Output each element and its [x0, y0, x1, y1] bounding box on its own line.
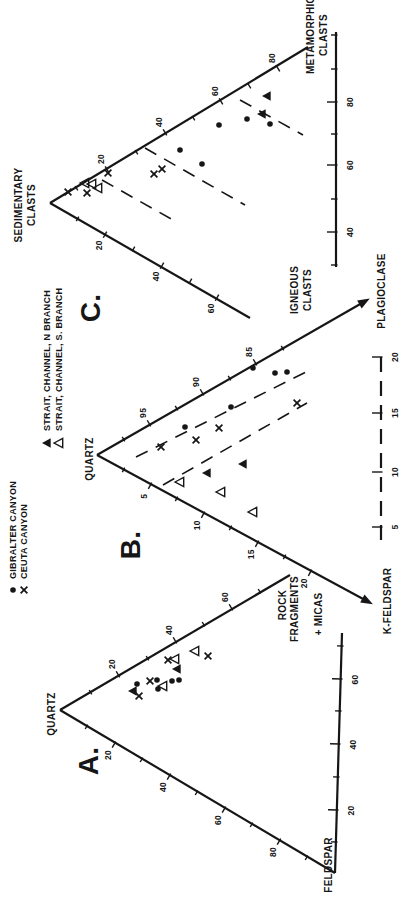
legend-label-nbranch: STRAIT, CHANNEL, N BRANCH [42, 290, 52, 431]
data-point-nbranch [128, 686, 137, 695]
a-vertex-label-fragments: FRAGMENTS [289, 576, 300, 642]
axis-tick-label: 60 [220, 592, 230, 602]
data-point-sbranch [175, 477, 184, 486]
b-apex-label-quartz: QUARTZ [84, 437, 95, 480]
axis-tick [248, 84, 251, 88]
group-divider-dashed-line [145, 148, 245, 205]
legend-marker-sbranch [54, 438, 63, 447]
axis-tick-label: 95 [138, 408, 148, 418]
data-point-gibralter [176, 677, 182, 683]
group-divider-dashed-line [240, 100, 303, 135]
axis-tick-label: 20 [299, 578, 309, 588]
group-divider-dashed-line [102, 180, 173, 220]
data-point-sbranch [93, 183, 102, 192]
data-point-sbranch [190, 646, 199, 655]
a-vertex-label-rock: ROCK [277, 589, 288, 620]
c-apex-label-sedimentary: SEDIMENTARY [13, 167, 24, 242]
data-point-nbranch [238, 459, 247, 468]
data-point-gibralter [284, 369, 290, 375]
axis-tick-label: 60 [210, 86, 220, 96]
axis-tick-label: 90 [191, 377, 201, 387]
legend-marker-gibralter [10, 587, 16, 593]
b-vertex-label-k-feldspar: K-FELDSPAR [382, 567, 393, 634]
axis-tick-label: 40 [158, 782, 168, 792]
axis-tick-label: 20 [94, 240, 104, 250]
axis-tick-label: 60 [345, 160, 355, 170]
data-point-gibralter [272, 370, 278, 376]
a-vertex-label-micas: + MICAS [313, 593, 324, 636]
data-point-gibralter [182, 424, 188, 430]
group-divider-dashed-line [163, 403, 307, 485]
axis-tick-label: 20 [96, 154, 106, 164]
legend-label-sbranch: STRAIT, CHANNEL, S. BRANCH [54, 288, 64, 431]
diagram-a-title: A. [73, 747, 104, 776]
diagram-c-title: C. [75, 294, 106, 323]
c-vertex-label-igneous: IGNEOUS [289, 266, 300, 314]
axis-tick-label: 40 [154, 117, 164, 127]
axis-tick-label: 40 [348, 739, 358, 749]
axis-tick-label: 40 [345, 227, 355, 237]
axis-tick-label: 20 [103, 750, 113, 760]
legend-label-gibralter: GIBRALTER CANYON [8, 481, 18, 579]
data-point-nbranch [202, 468, 211, 477]
axis-tick-label: 80 [345, 97, 355, 107]
axis-tick-label: 80 [268, 847, 278, 857]
a-vertex-label-feldspar: FELDSPAR [323, 837, 334, 893]
rotated-figure-stage: 20406020406080204060A.QUARTZFELDSPARROCK… [0, 0, 405, 911]
data-point-gibralter [134, 681, 140, 687]
axis-tick [189, 279, 191, 283]
a-apex-label-quartz: QUARTZ [46, 692, 57, 735]
ternary-edge [60, 575, 290, 710]
axis-tick-label: 20 [107, 659, 117, 669]
data-point-gibralter [216, 122, 222, 128]
axis-tick-label: 10 [390, 467, 400, 477]
axis-tick-label: 10 [192, 520, 202, 530]
data-point-sbranch [216, 487, 225, 496]
scale-bar-axis [335, 633, 342, 873]
data-point-nbranch [172, 664, 181, 673]
data-point-gibralter [154, 677, 160, 683]
axis-tick-label: 60 [206, 303, 216, 313]
c-vertex-label-metamorphic: METAMORPHIC [305, 0, 316, 74]
data-point-gibralter [169, 678, 175, 684]
data-point-nbranch [257, 109, 266, 118]
axis-arrowhead [360, 595, 373, 605]
axis-tick-label: 80 [267, 53, 277, 63]
axis-tick-label: 20 [346, 805, 356, 815]
axis-tick-label: 60 [213, 815, 223, 825]
axis-tick-label: 15 [390, 408, 400, 418]
diagram-b-title: B. [115, 531, 146, 560]
data-point-gibralter [250, 365, 256, 371]
c-vertex-label-igneous-clasts: CLASTS [302, 269, 313, 311]
axis-tick-label: 40 [164, 625, 174, 635]
axis-tick-label: 40 [151, 271, 161, 281]
data-point-gibralter [267, 121, 273, 127]
c-vertex-label-metamorphic-clasts: CLASTS [318, 14, 329, 56]
data-point-sbranch [248, 507, 257, 516]
legend-label-ceuta: CEUTA CANYON [19, 504, 29, 579]
c-apex-label-sedimentary-clasts: CLASTS [26, 184, 37, 226]
b-vertex-label-plagioclase: PLAGIOCLASE [376, 253, 387, 329]
axis-tick-label: 85 [244, 347, 254, 357]
data-point-gibralter [244, 116, 250, 122]
data-point-gibralter [177, 147, 183, 153]
legend-marker-nbranch [42, 438, 51, 447]
axis-tick-label: 5 [390, 524, 400, 529]
axis-tick-label: 15 [246, 549, 256, 559]
axis-arrowhead [357, 299, 370, 309]
data-point-nbranch [262, 91, 271, 100]
axis-tick-label: 5 [139, 494, 149, 499]
data-point-gibralter [228, 404, 234, 410]
axis-tick-label: 20 [390, 352, 400, 362]
ternary-diagrams-figure: 20406020406080204060A.QUARTZFELDSPARROCK… [0, 0, 405, 911]
data-point-gibralter [199, 161, 205, 167]
axis-tick-label: 60 [350, 674, 360, 684]
